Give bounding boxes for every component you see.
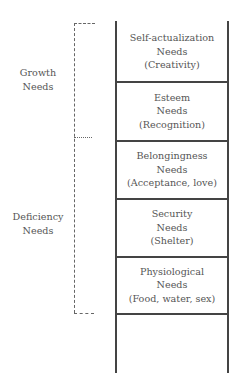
group-label-line: Deficiency	[3, 210, 73, 224]
level-name: Security	[152, 207, 193, 221]
group-label-deficiency: Deficiency Needs	[3, 210, 73, 237]
bracket-vertical-line	[74, 23, 75, 313]
level-name: Belongingness	[137, 149, 208, 163]
level-esteem: Esteem Needs (Recognition)	[116, 82, 228, 140]
level-name: Self-actualization	[130, 31, 214, 45]
level-example: (Food, water, sex)	[129, 292, 216, 306]
level-example: (Shelter)	[150, 234, 193, 248]
bracket-mid-tick	[74, 137, 92, 138]
level-example: (Acceptance, love)	[127, 176, 217, 190]
group-label-line: Needs	[3, 80, 73, 94]
bracket-top-tick	[74, 23, 95, 24]
level-suffix: Needs	[157, 278, 188, 292]
level-security: Security Needs (Shelter)	[116, 199, 228, 256]
level-example: (Recognition)	[139, 118, 205, 132]
level-belongingness: Belongingness Needs (Acceptance, love)	[116, 141, 228, 198]
group-label-line: Needs	[3, 224, 73, 238]
level-name: Esteem	[154, 91, 190, 105]
bracket-bottom-tick	[74, 313, 94, 314]
level-suffix: Needs	[157, 45, 188, 59]
divider-5	[115, 313, 229, 315]
level-physiological: Physiological Needs (Food, water, sex)	[116, 257, 228, 313]
level-self-actualization: Self-actualization Needs (Creativity)	[116, 22, 228, 81]
level-example: (Creativity)	[144, 58, 200, 72]
group-label-growth: Growth Needs	[3, 66, 73, 93]
group-label-line: Growth	[3, 66, 73, 80]
level-suffix: Needs	[157, 104, 188, 118]
level-name: Physiological	[140, 265, 204, 279]
level-suffix: Needs	[157, 221, 188, 235]
level-suffix: Needs	[157, 163, 188, 177]
